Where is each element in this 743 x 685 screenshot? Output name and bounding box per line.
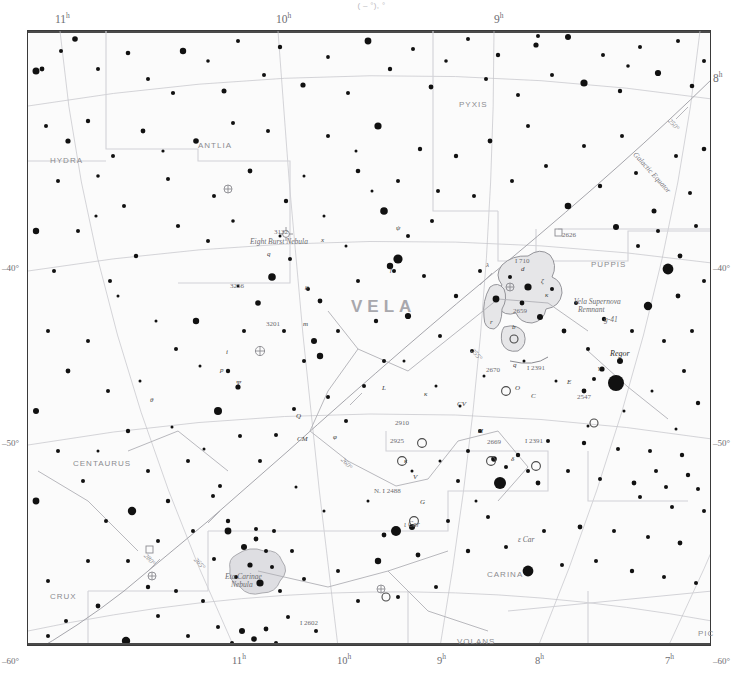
ra-tick-top-9: 9h — [494, 11, 504, 25]
bayer-q2: q — [513, 361, 517, 369]
bayer-d: d — [521, 265, 525, 273]
open-cluster-symbols — [382, 335, 598, 601]
ra-tick-bottom-7: 7h — [665, 652, 674, 666]
ra-tick-bottom-11: 11h — [232, 652, 246, 666]
bayer-H: H — [478, 427, 483, 435]
bayer-cm: CM — [297, 435, 308, 443]
dec-tick-left-60: –60° — [2, 656, 19, 666]
bayer-b: b — [512, 323, 516, 331]
constellation-label-puppis: PUPPIS — [591, 260, 626, 269]
globular-cluster-symbols — [148, 185, 514, 593]
dso-label-2547: 2547 — [577, 393, 591, 401]
dso-label-i2488: N. I 2488 — [374, 487, 401, 495]
bayer-delta: δ — [511, 455, 514, 463]
bayer-mu: μ — [305, 283, 309, 291]
dec-tick-right-60: –60° — [713, 656, 730, 666]
bayer-q: q — [267, 250, 271, 258]
ra-tick-bottom-8: 8h — [535, 652, 544, 666]
bayer-Q: Q — [296, 412, 301, 420]
sky-map-canvas — [28, 31, 711, 646]
ra-tick-right-8: 8h — [713, 70, 723, 84]
bayer-m: m — [303, 320, 308, 328]
bayer-cv: CV — [457, 400, 466, 408]
dso-label-vela-snr-2: Remnant — [578, 305, 605, 314]
ra-tick-bottom-10: 10h — [337, 652, 351, 666]
bayer-r: r — [490, 318, 493, 326]
bayer-kappa-2: κ — [424, 390, 427, 398]
star-field — [33, 34, 707, 646]
constellation-label-crux: CRUX — [50, 592, 77, 601]
dso-label-3201: 3201 — [266, 320, 280, 328]
bayer-phi: φ — [333, 433, 337, 441]
constellation-label-volans: VOLANS — [457, 637, 495, 646]
bayer-gamma: γ — [598, 364, 601, 372]
constellation-label-centaurus: CENTAURUS — [73, 459, 131, 468]
bayer-Psi: Ψ — [236, 379, 241, 387]
bayer-G: G — [420, 498, 425, 506]
ra-meridian-lines — [60, 31, 711, 646]
bayer-kappa-1: κ — [545, 291, 548, 299]
bayer-theta: θ — [150, 396, 153, 404]
dso-label-i2391: I 2391 — [525, 437, 543, 445]
constellation-label-vela: VELA — [351, 297, 416, 317]
bayer-E: E — [567, 378, 571, 386]
bayer-i: i — [226, 348, 228, 356]
constellation-label-carina: CARINA — [487, 570, 523, 579]
header-caption: ( – °), ° — [0, 0, 743, 12]
dso-label-2626: 2626 — [562, 231, 576, 239]
constellation-label-hydra: HYDRA — [50, 156, 83, 165]
dso-label-2670: 2670 — [486, 366, 500, 374]
bayer-L: L — [382, 384, 386, 392]
bayer-p: p — [220, 366, 224, 374]
constellation-label-pic: PIC — [698, 629, 714, 638]
declination-parallels — [28, 76, 711, 631]
dso-label-2910: 2910 — [395, 419, 409, 427]
star-label-iota-car: ι Car — [404, 520, 420, 529]
star-chart-page: ( – °), ° — [0, 0, 743, 685]
dso-label-2925: 2925 — [390, 437, 404, 445]
bayer-kappa-3: κ — [404, 457, 407, 465]
bayer-psi: ψ — [396, 224, 400, 232]
dec-tick-left-40: –40° — [2, 263, 19, 273]
constellation-boundaries — [28, 31, 711, 646]
dso-label-i710: I 710 — [515, 257, 530, 265]
dso-label-2669: 2669 — [487, 438, 501, 446]
dec-tick-right-50: –50° — [713, 438, 730, 448]
bayer-zeta: ζ — [541, 277, 544, 285]
constellation-label-pyxis: PYXIS — [459, 100, 488, 109]
dso-label-3256: 3256 — [230, 282, 244, 290]
bayer-V: V — [413, 473, 417, 481]
bayer-f: f — [390, 266, 392, 274]
dso-label-3132: 3132 — [274, 228, 288, 236]
dso-label-eight-burst: Eight Burst Nebula — [250, 237, 308, 246]
bayer-lambda: λ — [486, 261, 489, 269]
dso-label-eta-carinae-nebula: Nebula — [231, 580, 253, 589]
dso-label-i2602: I 2602 — [300, 619, 318, 627]
ra-tick-bottom-9: 9h — [437, 652, 446, 666]
ra-tick-top-10: 10h — [276, 11, 291, 25]
dso-label-2659: 2659 — [513, 307, 527, 315]
bayer-x: x — [321, 236, 324, 244]
star-label-regor: Regor — [610, 349, 630, 358]
ra-tick-top-11: 11h — [55, 11, 70, 25]
dec-tick-left-50: –50° — [2, 438, 19, 448]
bayer-C: C — [531, 392, 536, 400]
sky-map-frame — [27, 30, 711, 646]
bayer-O: O — [515, 384, 520, 392]
galactic-equator-line — [28, 79, 711, 646]
star-label-g41: g-41 — [604, 315, 618, 324]
dso-label-i2391-top: I 2391 — [527, 364, 545, 372]
star-label-eps-car: ε Car — [518, 535, 535, 544]
constellation-label-antlia: ANTLIA — [198, 141, 232, 150]
dec-tick-right-40: –40° — [713, 263, 730, 273]
